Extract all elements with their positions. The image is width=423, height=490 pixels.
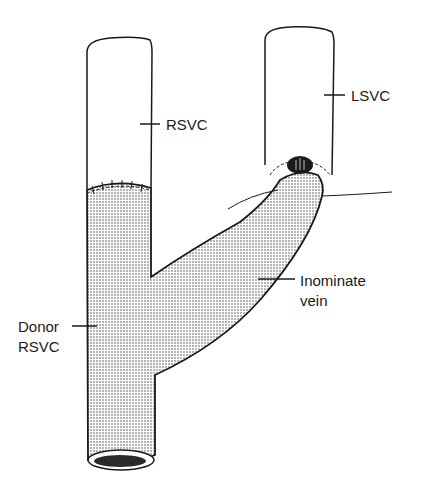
donor-rsvc-label-line1: Donor bbox=[18, 318, 59, 335]
svc-reconstruction-diagram: RSVC LSVC Donor RSVC Inominate vein bbox=[0, 0, 423, 490]
donor-graft bbox=[87, 156, 392, 470]
lsvc-vessel bbox=[265, 27, 334, 175]
lsvc-label: LSVC bbox=[351, 87, 390, 104]
innominate-vein-label-line1: Inominate bbox=[300, 272, 366, 289]
rsvc-label: RSVC bbox=[166, 116, 208, 133]
rsvc-vessel bbox=[87, 37, 152, 190]
donor-rsvc-label-line2: RSVC bbox=[18, 338, 60, 355]
innominate-vein-label-line2: vein bbox=[300, 292, 328, 309]
